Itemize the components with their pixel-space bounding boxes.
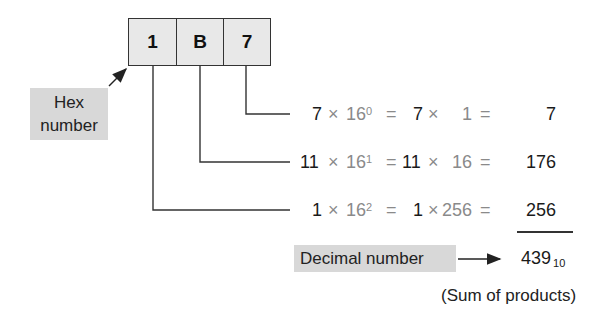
decimal-total: 43910 (521, 246, 565, 272)
decimal-number-label: Decimal number (294, 245, 456, 272)
row-eq1: = (386, 198, 397, 222)
hex-digit-cell: 1 (129, 19, 176, 65)
row-digit: 7 (312, 102, 322, 126)
row-eq1: = (386, 150, 397, 174)
row-eq2: = (480, 198, 491, 222)
row-times: × (328, 150, 339, 174)
product-row: 1 × 162 = 1 × 256 = 256 (290, 198, 560, 222)
row-power-value: 256 (440, 198, 472, 222)
row-times2: × (428, 150, 439, 174)
hex-digit-cell: B (176, 19, 223, 65)
row-eq1: = (386, 102, 397, 126)
sum-divider-line (517, 231, 573, 233)
row-digit: 11 (300, 150, 319, 174)
row-base-power: 162 (346, 198, 372, 222)
row-result: 7 (510, 102, 556, 126)
decimal-base-subscript: 10 (553, 257, 565, 269)
row-coef: 1 (413, 198, 423, 222)
row-base-power: 160 (346, 102, 372, 126)
row-base-power: 161 (346, 150, 372, 174)
decimal-value: 439 (521, 248, 551, 268)
row-times2: × (428, 102, 439, 126)
row-times2: × (428, 198, 439, 222)
row-result: 256 (510, 198, 556, 222)
hex-number-label: Hex number (30, 88, 108, 140)
row-times: × (328, 198, 339, 222)
row-power-value: 1 (442, 102, 472, 126)
hex-digit-cell: 7 (223, 19, 270, 65)
row-eq2: = (480, 102, 491, 126)
hex-label-line1: Hex (30, 91, 108, 114)
product-row: 7 × 160 = 7 × 1 = 7 (290, 102, 560, 126)
sum-of-products-note: (Sum of products) (441, 285, 576, 307)
row-coef: 11 (402, 150, 421, 174)
product-row: 11 × 161 = 11 × 16 = 176 (290, 150, 560, 174)
row-digit: 1 (312, 198, 322, 222)
row-result: 176 (510, 150, 556, 174)
row-times: × (328, 102, 339, 126)
row-eq2: = (480, 150, 491, 174)
row-coef: 7 (413, 102, 423, 126)
hex-digit-box: 1 B 7 (128, 18, 271, 66)
hex-label-line2: number (30, 114, 108, 137)
row-power-value: 16 (442, 150, 472, 174)
